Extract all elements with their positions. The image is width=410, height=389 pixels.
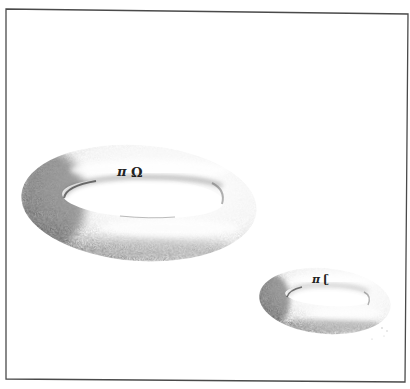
large-torus-pi-label: π [116, 164, 127, 179]
torus-illustration: π Ω π ʗ [0, 0, 410, 389]
small-torus-pi-label: π [311, 273, 321, 286]
large-torus-omega-label: Ω [131, 165, 143, 180]
small-torus-c-label: ʗ [323, 273, 329, 286]
